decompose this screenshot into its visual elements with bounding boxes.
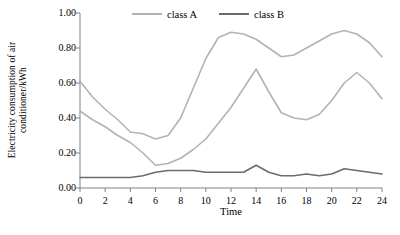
data-series xyxy=(80,31,382,178)
axes xyxy=(76,13,382,192)
chart-container: Electricity consumption of air condition… xyxy=(0,0,400,235)
plot-area xyxy=(0,0,400,235)
